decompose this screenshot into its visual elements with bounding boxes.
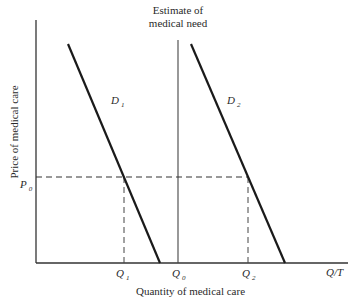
y-axis-title: Price of medical care	[8, 85, 20, 178]
x-axis-title: Quantity of medical care	[136, 285, 245, 297]
annotation-line-2: medical need	[140, 17, 216, 30]
demand-curve-d1	[68, 44, 160, 263]
d1-label: D1	[111, 94, 124, 108]
demand-curve-d2	[191, 44, 285, 263]
d2-label: D2	[227, 94, 240, 108]
medical-need-annotation: Estimate of medical need	[140, 4, 216, 30]
chart-canvas	[0, 0, 357, 304]
q0-label: Q0	[172, 267, 185, 281]
q2-label: Q2	[242, 267, 255, 281]
p0-label: P0	[20, 178, 32, 192]
annotation-line-1: Estimate of	[140, 4, 216, 17]
qt-label: Q/T	[326, 266, 343, 278]
q1-label: Q1	[116, 267, 129, 281]
